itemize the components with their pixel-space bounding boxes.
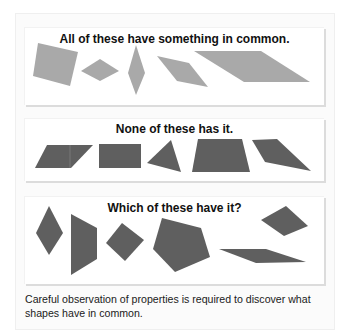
square-shape [106,223,144,261]
shapes-none [35,139,311,172]
quadrilateral-shape [252,139,311,171]
shapes-layer [0,0,341,335]
parallelogram-small-shape [157,56,208,87]
trapezoid-shape [192,139,250,172]
pentagon-shape [153,218,210,272]
rhombus-shape [81,59,119,81]
parallelogram-large-shape [194,51,310,82]
shapes-common [33,43,310,95]
rectangle-shape [99,144,141,168]
parallelogram-shape [35,145,93,168]
rhombus-tilted-shape [261,206,308,236]
parallelogram-flat-shape [219,249,306,263]
caption: Careful observation of properties is req… [25,292,325,320]
trapezoid-shape [71,214,97,275]
shapes-which [36,206,308,275]
rhombus-shape [36,206,63,255]
square-shape [33,43,78,86]
tall-rhombus-shape [128,45,145,95]
triangle-shape [147,140,181,172]
